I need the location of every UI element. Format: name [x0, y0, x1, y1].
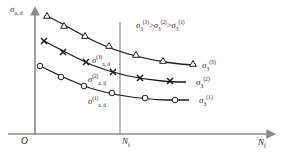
inequality-annotation: σ3(3)>σ3(2)>σ3(1) — [136, 20, 185, 32]
inner1-superscript: (1) — [92, 95, 98, 101]
curve2-superscript: (2) — [203, 76, 210, 82]
inner-label-sigma-ad-2: σ(2)a, d — [88, 74, 106, 86]
inner-label-sigma-ad-3: σ(3)a, d — [92, 55, 110, 67]
curve-label-sigma3-1: σ3(1) — [199, 95, 213, 107]
inner3-subscript: a, d — [102, 61, 110, 67]
curve-label-sigma3-3: σ3(3) — [202, 60, 216, 72]
curve1-superscript: (1) — [206, 94, 213, 100]
curve3-subscript: 3 — [206, 66, 209, 72]
curve1-subscript: 3 — [203, 101, 206, 107]
curve2-subscript: 3 — [200, 83, 203, 89]
ineq-sub-3: 3 — [176, 26, 179, 32]
inner2-superscript: (2) — [92, 73, 98, 79]
y-axis-label: σa, d — [10, 5, 23, 16]
markers-circle — [37, 63, 178, 103]
fatigue-curve-figure: σa, d Nf O Nf σ3(3)>σ3(2)>σ3(1) σ3(3) σ3… — [0, 0, 281, 163]
inner3-superscript: (3) — [96, 54, 102, 60]
x-axis-subscript: f — [264, 143, 266, 149]
inner1-subscript: a, d — [98, 102, 106, 108]
ineq-sub-2: 3 — [158, 26, 161, 32]
x-axis-label: Nf — [258, 138, 266, 149]
curve-label-sigma3-2: σ3(2) — [196, 77, 210, 89]
ineq-sup-3: (1) — [178, 19, 184, 25]
curve3-superscript: (3) — [209, 59, 216, 65]
origin-label: O — [21, 137, 28, 147]
tick-subscript: f — [128, 142, 130, 148]
tick-label-nf: Nf — [122, 137, 130, 148]
ineq-sub-1: 3 — [140, 26, 143, 32]
inner2-subscript: a, d — [98, 80, 106, 86]
y-axis-subscript: a, d — [14, 10, 22, 16]
inner-label-sigma-ad-1: σ(1)a, d — [88, 96, 106, 108]
